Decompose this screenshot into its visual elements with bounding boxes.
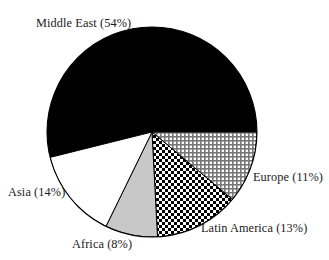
pie-chart-figure: Middle East (54%) Europe (11%) Latin Ame…: [0, 0, 329, 260]
slice-label-asia: Asia (14%): [8, 185, 65, 199]
slice-label-middle-east: Middle East (54%): [36, 16, 131, 30]
pie-chart-canvas: Middle East (54%) Europe (11%) Latin Ame…: [0, 0, 329, 260]
slice-label-africa: Africa (8%): [72, 237, 132, 251]
pie-slices-group: [47, 27, 257, 237]
slice-label-europe: Europe (11%): [253, 170, 323, 184]
slice-label-latin-america: Latin America (13%): [201, 221, 307, 235]
